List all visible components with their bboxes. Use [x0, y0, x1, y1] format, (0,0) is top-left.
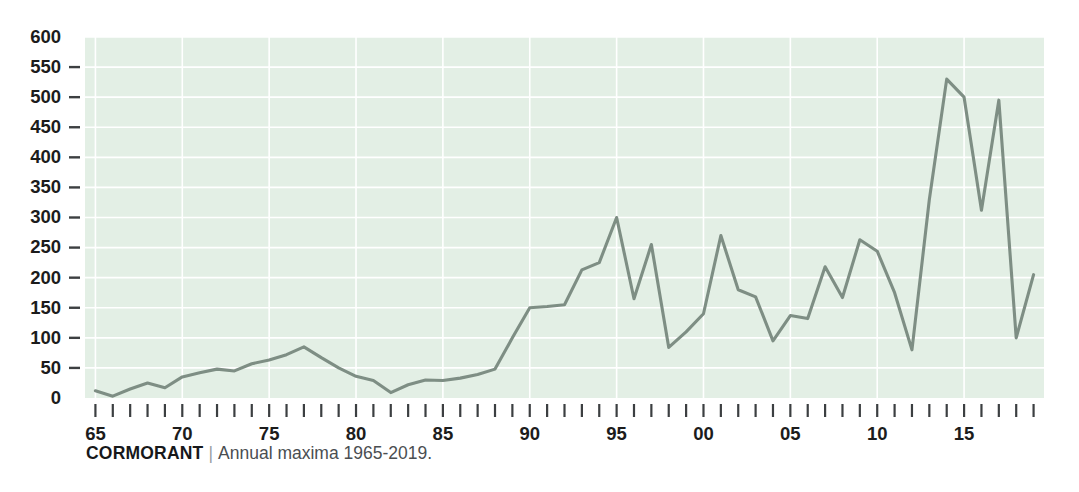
x-tick-marks-group [95, 404, 1033, 417]
y-tick-marks-group [69, 67, 80, 368]
y-axis-tick-label: 200 [30, 267, 61, 288]
x-axis-tick-label: 95 [606, 423, 627, 444]
x-axis-tick-label: 65 [85, 423, 106, 444]
y-axis-tick-label: 500 [30, 86, 61, 107]
y-axis-tick-label: 50 [40, 357, 61, 378]
x-axis-tick-label: 70 [172, 423, 193, 444]
x-axis-tick-label: 90 [519, 423, 540, 444]
x-axis-tick-label: 15 [954, 423, 975, 444]
caption-separator: | [203, 443, 218, 463]
y-axis-tick-label: 450 [30, 116, 61, 137]
y-axis-tick-label: 400 [30, 146, 61, 167]
y-axis-tick-label: 150 [30, 297, 61, 318]
x-axis-tick-label: 85 [433, 423, 454, 444]
y-axis-tick-label: 350 [30, 176, 61, 197]
caption-title: CORMORANT [86, 443, 203, 463]
x-axis-tick-label: 10 [867, 423, 888, 444]
x-axis-tick-label: 75 [259, 423, 280, 444]
caption-subtitle: Annual maxima 1965-2019. [218, 443, 432, 463]
y-axis-tick-label: 550 [30, 56, 61, 77]
x-axis-tick-label: 80 [346, 423, 367, 444]
y-axis-tick-label: 250 [30, 236, 61, 257]
x-axis-tick-label: 00 [693, 423, 714, 444]
line-chart: 050100150200250300350400450500550600 657… [0, 0, 1079, 492]
x-axis-tick-label: 05 [780, 423, 801, 444]
x-tick-labels-group: 6570758085909500051015 [85, 423, 974, 444]
y-tick-labels-group: 050100150200250300350400450500550600 [30, 26, 61, 408]
y-axis-tick-label: 600 [30, 26, 61, 47]
chart-caption: CORMORANT|Annual maxima 1965-2019. [86, 443, 432, 464]
y-axis-tick-label: 0 [51, 387, 61, 408]
chart-container: 050100150200250300350400450500550600 657… [0, 0, 1079, 492]
y-axis-tick-label: 100 [30, 327, 61, 348]
y-axis-tick-label: 300 [30, 206, 61, 227]
